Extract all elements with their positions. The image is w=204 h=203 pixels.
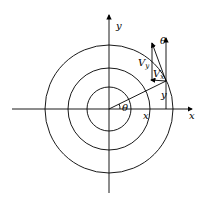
x-axis-label: x	[189, 110, 195, 121]
theta-arc	[119, 104, 120, 109]
vx-label: Vx	[153, 68, 164, 81]
polar-diagram: y x θ θ Vy Vx x y	[0, 0, 204, 203]
radius-line	[109, 81, 166, 109]
y-label: y	[160, 89, 167, 100]
theta-top-label: θ	[160, 35, 166, 46]
y-axis-label: y	[115, 20, 122, 31]
x-label: x	[143, 110, 149, 121]
theta-origin-label: θ	[122, 102, 128, 113]
